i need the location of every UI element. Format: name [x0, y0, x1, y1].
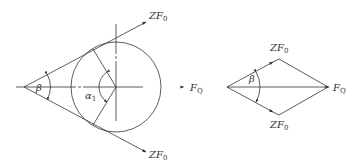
label-fq-right: FQ	[332, 82, 346, 95]
label-zf0-top-right: ZF0	[269, 42, 288, 55]
upper-radius	[93, 49, 116, 87]
label-alpha1: α1	[85, 90, 96, 103]
force-polygon	[227, 59, 329, 115]
lower-force-vector	[227, 87, 273, 112]
belt-force-diagram: ZF0 ZF0 FQ α1 β ZF0 ZF0 FQ β	[0, 0, 356, 168]
left-labels: ZF0 ZF0 FQ α1 β	[35, 10, 203, 162]
lower-radius	[93, 87, 116, 125]
label-zf0-top: ZF0	[148, 10, 167, 23]
upper-belt-line	[24, 22, 146, 87]
upper-force-tail	[273, 59, 279, 62]
label-beta-right: β	[248, 73, 255, 84]
upper-right-edge	[279, 59, 328, 87]
lower-force-tail	[273, 112, 279, 115]
lower-right-edge	[279, 87, 328, 115]
label-zf0-bottom-right: ZF0	[269, 119, 288, 132]
label-beta: β	[35, 82, 42, 93]
label-fq: FQ	[189, 82, 203, 95]
label-zf0-bottom: ZF0	[148, 149, 167, 162]
